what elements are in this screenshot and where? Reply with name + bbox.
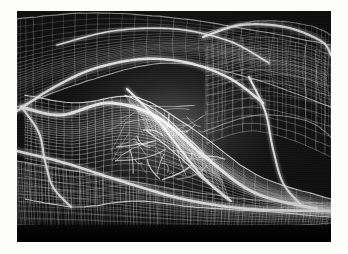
wireframe-figure: [17, 11, 331, 242]
bottom-black-band: [17, 225, 331, 242]
core-glow: [17, 11, 331, 242]
wireframe-mesh-svg: [17, 11, 331, 242]
page-canvas: [0, 0, 348, 254]
